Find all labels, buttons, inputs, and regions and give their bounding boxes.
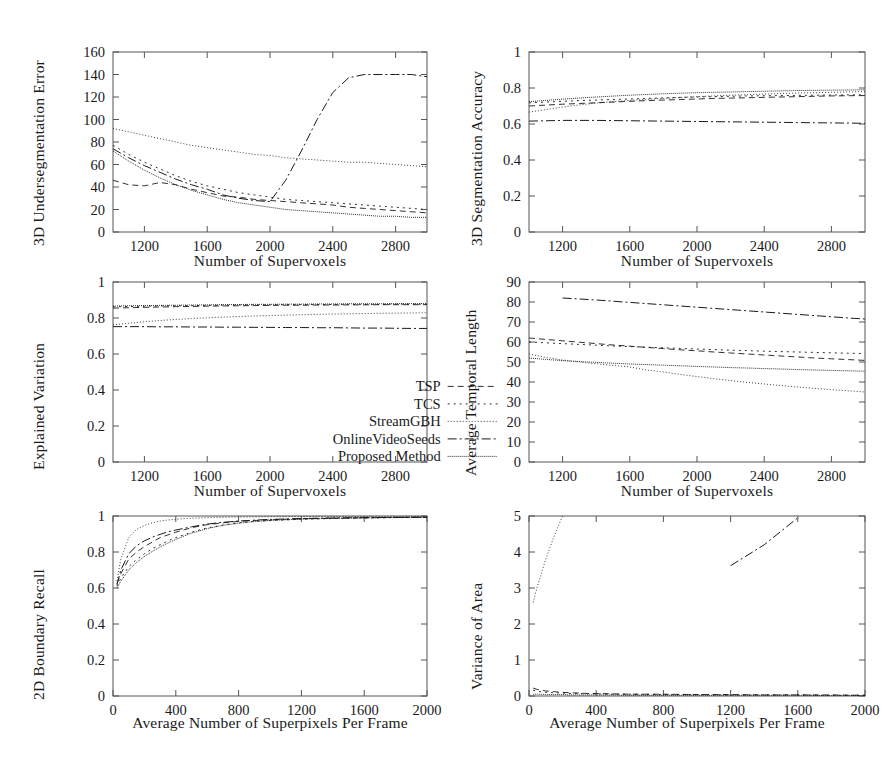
legend-label-streamgbh: StreamGBH: [369, 413, 441, 429]
series-line-proposed-method: [113, 304, 427, 307]
series-line-streamgbh: [533, 516, 562, 602]
y-tick-label: 0: [98, 224, 105, 240]
x-axis-label-segmentation-accuracy: Number of Supervoxels: [529, 252, 865, 270]
series-line-tsp: [113, 305, 427, 308]
y-tick-label: 5: [514, 508, 521, 524]
y-tick-label: 20: [91, 202, 106, 218]
figure-panel-grid: 0204060801001201401601200160020002400280…: [0, 0, 893, 781]
y-tick-label: 40: [507, 374, 522, 390]
y-tick-label: 70: [507, 314, 522, 330]
series-line-tcs: [533, 690, 865, 695]
y-tick-label: 0.6: [87, 346, 105, 362]
series-line-tsp: [529, 96, 865, 106]
y-tick-label: 30: [507, 394, 522, 410]
series-line-tcs: [113, 145, 427, 209]
y-axis-label-explained-variation: Explained Variation: [30, 343, 48, 470]
y-tick-label: 1: [514, 652, 521, 668]
series-line-streamgbh: [113, 313, 427, 325]
x-axis-label-explained-variation: Number of Supervoxels: [113, 482, 427, 500]
y-tick-label: 80: [91, 134, 106, 150]
y-tick-label: 3: [514, 580, 521, 596]
y-tick-label: 80: [507, 294, 522, 310]
y-axis-label-segmentation-accuracy: 3D Segmentation Accuracy: [468, 71, 486, 246]
y-tick-label: 100: [83, 112, 105, 128]
series-line-proposed-method: [117, 517, 427, 588]
y-tick-label: 2: [514, 616, 521, 632]
y-tick-label: 60: [507, 334, 522, 350]
series-line-proposed-method: [533, 694, 865, 695]
series-line-tsp: [533, 688, 865, 695]
series-line-tsp: [113, 180, 427, 213]
series-line-tsp: [529, 338, 865, 360]
y-tick-label: 0: [98, 688, 105, 704]
legend-label-proposed-method: Proposed Method: [338, 448, 441, 464]
x-axis-label-variance-of-area: Average Number of Superpixels Per Frame: [492, 714, 882, 732]
y-tick-label: 0.4: [87, 382, 106, 398]
y-tick-label: 160: [83, 44, 105, 60]
plot-frame: [529, 282, 865, 462]
legend-label-onlinevideoseeds: OnlineVideoSeeds: [333, 431, 441, 447]
y-tick-label: 0: [514, 224, 521, 240]
y-tick-label: 0.8: [87, 310, 105, 326]
series-line-onlinevideoseeds: [113, 75, 427, 202]
legend-label-tsp: TSP: [416, 378, 441, 394]
y-tick-label: 0: [98, 454, 105, 470]
y-axis-label-variance-of-area: Variance of Area: [468, 583, 486, 690]
series-line-streamgbh: [529, 354, 865, 392]
legend-label-tcs: TCS: [414, 396, 441, 412]
y-tick-label: 0.2: [87, 652, 105, 668]
y-tick-label: 0.2: [87, 418, 105, 434]
series-line-tcs: [117, 517, 427, 586]
series-line-onlinevideoseeds: [529, 120, 865, 123]
y-tick-label: 60: [91, 157, 106, 173]
y-tick-label: 140: [83, 67, 105, 83]
y-tick-label: 40: [91, 179, 106, 195]
series-line-streamgbh: [113, 129, 427, 167]
y-tick-label: 120: [83, 89, 105, 105]
y-tick-label: 0.6: [503, 116, 521, 132]
series-line-onlinevideoseeds: [563, 298, 865, 319]
y-tick-label: 0: [514, 688, 521, 704]
series-line-onlinevideoseeds: [731, 518, 798, 566]
y-tick-label: 0.8: [503, 80, 521, 96]
y-tick-label: 0.4: [87, 616, 106, 632]
y-tick-label: 10: [507, 434, 522, 450]
series-line-onlinevideoseeds: [113, 327, 427, 329]
series-line-proposed-method: [529, 90, 865, 102]
series-line-tcs: [529, 342, 865, 354]
y-tick-label: 1: [98, 508, 105, 524]
plot-frame: [113, 282, 427, 462]
y-tick-label: 0.4: [503, 152, 522, 168]
series-line-proposed-method: [529, 358, 865, 371]
series-line-proposed-method: [113, 151, 427, 217]
y-tick-label: 0: [514, 454, 521, 470]
series-line-tsp: [117, 517, 427, 583]
x-axis-label-boundary-recall: Average Number of Superpixels Per Frame: [75, 714, 465, 732]
y-tick-label: 0.8: [87, 544, 105, 560]
plot-frame: [529, 52, 865, 232]
series-line-tcs: [113, 304, 427, 307]
y-tick-label: 4: [514, 544, 522, 560]
plot-frame: [529, 516, 865, 696]
y-axis-label-boundary-recall: 2D Boundary Recall: [30, 569, 48, 700]
plot-frame: [113, 516, 427, 696]
y-tick-label: 0.2: [503, 188, 521, 204]
plot-frame: [113, 52, 427, 232]
y-tick-label: 50: [507, 354, 522, 370]
series-line-tcs: [529, 95, 865, 103]
series-line-streamgbh: [529, 92, 865, 113]
series-line-streamgbh: [117, 516, 427, 580]
y-axis-label-average-temporal-length: Average Temporal Length: [462, 310, 480, 477]
y-axis-label-undersegmentation-error: 3D Undersegmentation Error: [30, 60, 48, 246]
y-tick-label: 1: [98, 274, 105, 290]
x-axis-label-undersegmentation-error: Number of Supervoxels: [113, 252, 427, 270]
y-tick-label: 20: [507, 414, 522, 430]
series-line-onlinevideoseeds: [117, 517, 427, 585]
x-axis-label-average-temporal-length: Number of Supervoxels: [529, 482, 865, 500]
y-tick-label: 1: [514, 44, 521, 60]
y-tick-label: 0.6: [87, 580, 105, 596]
y-tick-label: 90: [507, 274, 522, 290]
